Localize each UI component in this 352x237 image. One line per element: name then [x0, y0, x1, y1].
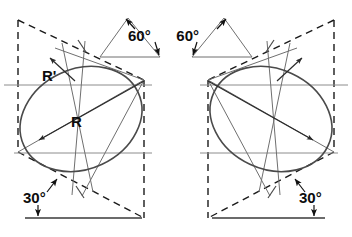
left-radius-large-label: R [71, 113, 82, 130]
left-radius-small-label: R' [42, 67, 56, 84]
right-angle-60-label: 60° [176, 27, 199, 44]
figure-canvas: R' R 60° 30° [0, 0, 352, 237]
left-angle-30-label: 30° [23, 189, 46, 206]
left-angle-60-label: 60° [128, 27, 151, 44]
technical-drawing-figure: R' R 60° 30° [0, 0, 352, 237]
right-angle-30-label: 30° [299, 189, 322, 206]
